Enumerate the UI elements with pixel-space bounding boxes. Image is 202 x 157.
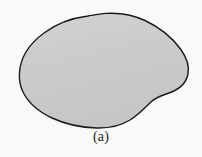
region-outline-path: [19, 13, 188, 128]
figure-caption: (a): [0, 128, 202, 146]
figure-panel: (a): [0, 0, 202, 157]
